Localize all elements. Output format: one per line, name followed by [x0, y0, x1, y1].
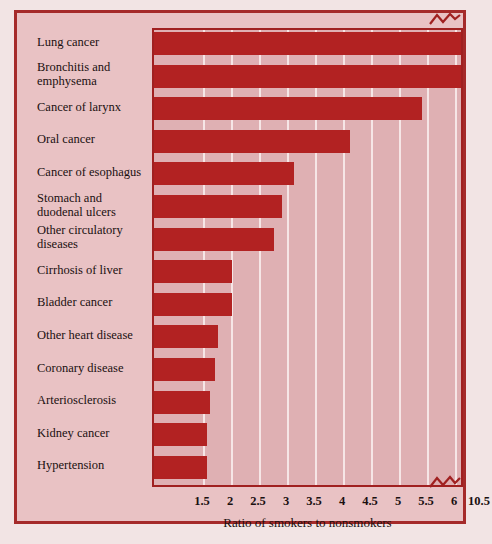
- category-label-other-heart-disease: Other heart disease: [37, 328, 147, 342]
- category-label-line: Bladder cancer: [37, 295, 147, 309]
- bar-cancer-of-esophagus: [154, 162, 294, 185]
- category-label-line: Arteriosclerosis: [37, 393, 147, 407]
- category-label-line: Bronchitis and: [37, 60, 147, 74]
- category-label-cancer-of-larynx: Cancer of larynx: [37, 100, 147, 114]
- category-label-bladder-cancer: Bladder cancer: [37, 295, 147, 309]
- category-label-line: Other heart disease: [37, 328, 147, 342]
- x-tick-5-5: 5.5: [418, 494, 434, 509]
- bar-row: [154, 162, 461, 185]
- category-label-arteriosclerosis: Arteriosclerosis: [37, 393, 147, 407]
- bar-row: [154, 423, 461, 446]
- x-tick-3: 3: [283, 494, 289, 509]
- category-label-line: Lung cancer: [37, 35, 147, 49]
- category-label-line: Stomach and: [37, 191, 147, 205]
- category-label-line: Oral cancer: [37, 132, 147, 146]
- category-label-hypertension: Hypertension: [37, 458, 147, 472]
- category-label-stomach-and-duodenal-ulcers: Stomach andduodenal ulcers: [37, 191, 147, 219]
- category-label-coronary-disease: Coronary disease: [37, 361, 147, 375]
- bar-kidney-cancer: [154, 423, 207, 446]
- x-tick-6: 6: [451, 494, 457, 509]
- bar-arteriosclerosis: [154, 391, 210, 414]
- bar-row: [154, 293, 461, 316]
- x-axis-title: Ratio of smokers to nonsmokers: [152, 515, 463, 531]
- bar-row: [154, 65, 461, 88]
- axis-break-icon-bottom: [428, 475, 462, 489]
- category-label-cirrhosis-of-liver: Cirrhosis of liver: [37, 263, 147, 277]
- chart-figure: Lung cancerBronchitis andemphysemaCancer…: [14, 10, 466, 524]
- category-label-line: emphysema: [37, 74, 147, 88]
- category-label-line: Cancer of esophagus: [37, 165, 147, 179]
- category-label-line: Other circulatory: [37, 223, 147, 237]
- category-label-line: Coronary disease: [37, 361, 147, 375]
- category-label-line: Cancer of larynx: [37, 100, 147, 114]
- bar-hypertension: [154, 456, 207, 479]
- category-label-other-circulatory-diseases: Other circulatorydiseases: [37, 223, 147, 251]
- x-tick-1-5: 1.5: [194, 494, 210, 509]
- bar-row: [154, 130, 461, 153]
- bar-row: [154, 325, 461, 348]
- bar-row: [154, 456, 461, 479]
- bar-lung-cancer: [154, 32, 463, 55]
- x-tick-3-5: 3.5: [306, 494, 322, 509]
- x-tick-10-5: 10.5: [468, 494, 490, 509]
- bar-other-circulatory-diseases: [154, 228, 274, 251]
- category-label-kidney-cancer: Kidney cancer: [37, 426, 147, 440]
- category-label-bronchitis-and-emphysema: Bronchitis andemphysema: [37, 60, 147, 88]
- x-tick-2: 2: [227, 494, 233, 509]
- bar-row: [154, 97, 461, 120]
- bar-row: [154, 358, 461, 381]
- bar-bladder-cancer: [154, 293, 232, 316]
- bar-series: [154, 30, 461, 485]
- bar-row: [154, 195, 461, 218]
- bar-other-heart-disease: [154, 325, 218, 348]
- category-label-lung-cancer: Lung cancer: [37, 35, 147, 49]
- x-tick-4: 4: [339, 494, 345, 509]
- axis-break-icon: [428, 13, 462, 25]
- bar-cancer-of-larynx: [154, 97, 422, 120]
- bar-stomach-and-duodenal-ulcers: [154, 195, 282, 218]
- x-tick-5: 5: [395, 494, 401, 509]
- plot-area: [152, 28, 463, 487]
- category-label-line: diseases: [37, 237, 147, 251]
- category-label-line: Hypertension: [37, 458, 147, 472]
- category-label-line: duodenal ulcers: [37, 205, 147, 219]
- category-label-oral-cancer: Oral cancer: [37, 132, 147, 146]
- bar-coronary-disease: [154, 358, 215, 381]
- bar-row: [154, 391, 461, 414]
- category-label-line: Kidney cancer: [37, 426, 147, 440]
- category-label-cancer-of-esophagus: Cancer of esophagus: [37, 165, 147, 179]
- bar-row: [154, 260, 461, 283]
- bar-bronchitis-and-emphysema: [154, 65, 463, 88]
- bar-row: [154, 32, 461, 55]
- x-tick-4-5: 4.5: [362, 494, 378, 509]
- x-tick-2-5: 2.5: [250, 494, 266, 509]
- bar-row: [154, 228, 461, 251]
- bar-cirrhosis-of-liver: [154, 260, 232, 283]
- bar-oral-cancer: [154, 130, 350, 153]
- category-label-line: Cirrhosis of liver: [37, 263, 147, 277]
